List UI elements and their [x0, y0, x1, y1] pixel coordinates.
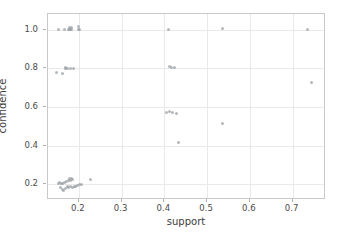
y-axis-label: confidence: [0, 79, 8, 134]
scatter-point: [80, 183, 83, 186]
gridline-horizontal: [48, 184, 324, 185]
scatter-point: [71, 178, 74, 181]
scatter-chart-figure: confidence support 0.20.30.40.50.60.70.2…: [0, 0, 340, 238]
gridline-vertical: [250, 14, 251, 198]
scatter-point: [171, 111, 174, 114]
x-tick-mark: [78, 199, 79, 202]
scatter-point: [70, 26, 73, 29]
scatter-point: [70, 28, 73, 31]
y-tick-mark: [43, 183, 46, 184]
scatter-point: [89, 178, 92, 181]
gridline-vertical: [293, 14, 294, 198]
gridline-vertical: [79, 14, 80, 198]
x-tick-mark: [292, 199, 293, 202]
gridline-horizontal: [48, 30, 324, 31]
scatter-point: [72, 67, 75, 70]
x-tick-label: 0.7: [285, 203, 299, 213]
x-tick-label: 0.4: [157, 203, 171, 213]
x-tick-mark: [249, 199, 250, 202]
y-tick-mark: [43, 29, 46, 30]
x-tick-mark: [163, 199, 164, 202]
x-tick-mark: [206, 199, 207, 202]
x-tick-label: 0.6: [242, 203, 256, 213]
y-tick-mark: [43, 106, 46, 107]
x-tick-label: 0.5: [199, 203, 213, 213]
x-axis-label: support: [47, 216, 325, 227]
plot-area: [47, 13, 325, 199]
y-tick-label: 1.0: [24, 24, 38, 34]
y-tick-label: 0.2: [24, 178, 38, 188]
gridline-vertical: [207, 14, 208, 198]
y-tick-mark: [43, 67, 46, 68]
x-tick-mark: [121, 199, 122, 202]
gridline-vertical: [122, 14, 123, 198]
x-tick-label: 0.3: [114, 203, 128, 213]
gridline-horizontal: [48, 107, 324, 108]
y-tick-label: 0.6: [24, 101, 38, 111]
gridline-horizontal: [48, 146, 324, 147]
scatter-point: [221, 122, 224, 125]
scatter-point: [306, 28, 309, 31]
x-tick-label: 0.2: [71, 203, 85, 213]
y-tick-label: 0.8: [24, 62, 38, 72]
y-tick-label: 0.4: [24, 140, 38, 150]
scatter-point: [310, 81, 313, 84]
scatter-point: [167, 28, 170, 31]
scatter-point: [175, 112, 178, 115]
gridline-horizontal: [48, 68, 324, 69]
scatter-point: [61, 72, 64, 75]
scatter-point: [177, 141, 180, 144]
gridline-vertical: [164, 14, 165, 198]
scatter-point: [78, 28, 81, 31]
scatter-point: [55, 71, 58, 74]
scatter-point: [63, 28, 66, 31]
y-tick-mark: [43, 145, 46, 146]
scatter-point: [57, 28, 60, 31]
